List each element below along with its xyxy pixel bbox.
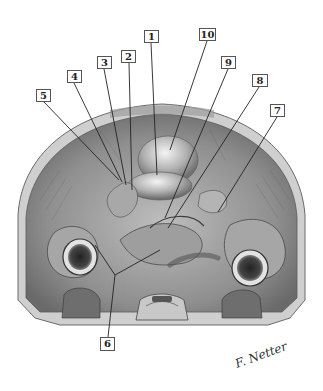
leader-line-4 (74, 83, 122, 182)
label-5: 5 (36, 89, 51, 102)
anatomy-figure: 1 2 3 4 5 6 7 8 9 10 F. Netter (0, 0, 323, 391)
label-6: 6 (100, 337, 115, 351)
leader-line-7 (218, 117, 277, 212)
label-4: 4 (67, 70, 82, 83)
label-10: 10 (199, 28, 216, 41)
label-3: 3 (97, 56, 112, 69)
leader-line-6 (108, 275, 115, 337)
label-1: 1 (144, 30, 159, 43)
leader-line-1 (151, 43, 157, 175)
leader-line-5 (44, 102, 119, 180)
label-7: 7 (270, 104, 285, 117)
leader-line-6a (95, 245, 115, 275)
label-2: 2 (121, 50, 136, 63)
leader-line-6b (115, 250, 160, 275)
leader-line-9 (165, 69, 228, 218)
leader-lines (0, 0, 323, 391)
label-9: 9 (221, 56, 236, 69)
leader-line-10 (170, 41, 207, 150)
label-8: 8 (252, 74, 268, 87)
leader-line-8 (168, 87, 259, 228)
leader-line-2 (129, 63, 132, 190)
